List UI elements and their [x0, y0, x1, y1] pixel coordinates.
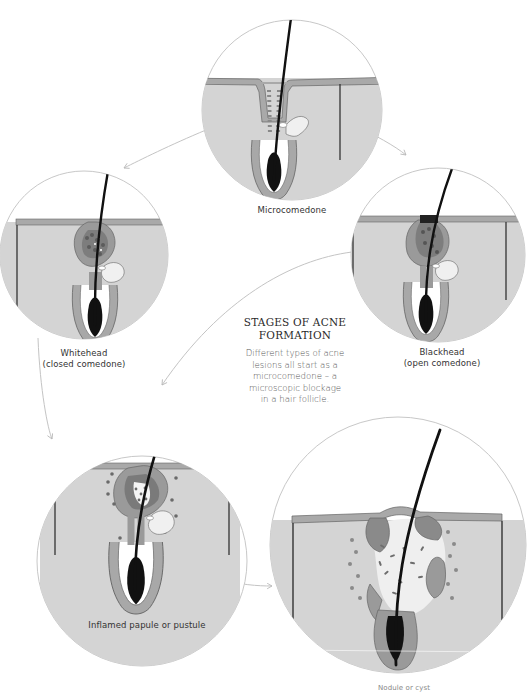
infographic-description: Different types of acne lesions all star…: [220, 348, 370, 406]
blackhead-subtitle: (open comedone): [382, 358, 502, 369]
label-microcomedone: Microcomedone: [232, 205, 352, 216]
label-nodule: Nodule or cyst: [354, 684, 454, 692]
stage-microcomedone-illustration: [180, 18, 395, 218]
label-blackhead: Blackhead (open comedone): [382, 347, 502, 369]
acne-stages-diagram: [0, 0, 529, 692]
label-whitehead: Whitehead (closed comedone): [24, 348, 144, 370]
stage-blackhead-illustration: [350, 158, 529, 348]
whitehead-subtitle: (closed comedone): [24, 359, 144, 370]
blackhead-title: Blackhead: [382, 347, 502, 358]
infographic-title: STAGES OF ACNE FORMATION: [220, 316, 370, 342]
arrow-micro-to-whitehead: [124, 130, 206, 168]
label-inflamed: Inflamed papule or pustule: [72, 620, 222, 631]
whitehead-title: Whitehead: [24, 348, 144, 359]
stage-nodule-illustration: [270, 417, 529, 692]
stage-whitehead-illustration: [0, 160, 176, 345]
